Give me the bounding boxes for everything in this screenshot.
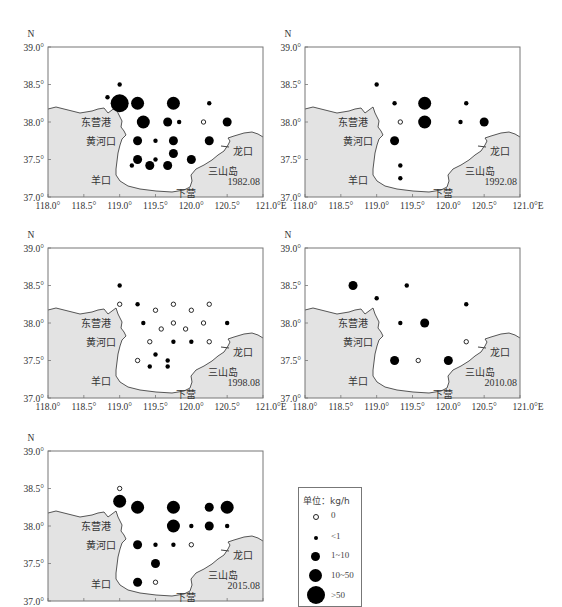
station-marker xyxy=(205,522,214,531)
station-marker xyxy=(205,503,214,512)
lat-tick-label: 38.0° xyxy=(24,522,45,532)
station-marker xyxy=(133,540,142,549)
station-marker xyxy=(189,524,193,528)
year-label: 2015.08 xyxy=(228,580,261,591)
legend-box: 单位：kg/h 0 <1 1~10 10~50 >50 xyxy=(298,487,362,607)
station-marker xyxy=(113,495,126,508)
legend-title: 单位：kg/h xyxy=(303,494,350,507)
station-marker xyxy=(167,501,180,514)
map-panel-2015: 39.0°38.5°38.0°37.5°37.0°N东营港黄河口龙口羊口三山岛下… xyxy=(0,0,281,593)
lat-tick-label: 37.0° xyxy=(24,597,45,607)
station-marker xyxy=(171,543,175,547)
lat-axis-label: N xyxy=(28,433,35,443)
legend-item-1-10: 1~10 xyxy=(299,549,363,565)
legend-item-zero: 0 xyxy=(299,509,363,525)
place-label-longkou: 龙口 xyxy=(233,549,253,561)
legend-item-gt50: >50 xyxy=(299,586,363,602)
lat-tick-label: 37.5° xyxy=(24,559,45,569)
station-marker xyxy=(117,486,121,490)
station-marker xyxy=(133,578,142,587)
place-label-dongying: 东营港 xyxy=(81,520,111,532)
legend-item-10-50: 10~50 xyxy=(299,568,363,584)
medium-dot-icon xyxy=(311,552,320,561)
lat-tick-label: 38.5° xyxy=(24,484,45,494)
small-dot-icon xyxy=(314,536,318,540)
lat-tick-label: 39.0° xyxy=(24,447,45,457)
place-label-xiaying: 下营 xyxy=(176,591,196,603)
station-marker xyxy=(131,501,144,514)
station-marker xyxy=(189,543,193,547)
legend-item-lt1: <1 xyxy=(299,530,363,546)
place-label-huanghekou: 黄河口 xyxy=(86,539,116,551)
station-marker xyxy=(221,501,234,514)
open-circle-icon xyxy=(313,514,319,520)
station-marker xyxy=(153,580,157,584)
xlarge-dot-icon xyxy=(307,586,325,604)
large-dot-icon xyxy=(309,569,322,582)
station-marker xyxy=(167,520,180,533)
station-marker xyxy=(225,524,229,528)
station-marker xyxy=(153,543,157,547)
place-label-yangkou: 羊口 xyxy=(91,578,111,590)
station-marker xyxy=(151,559,160,568)
